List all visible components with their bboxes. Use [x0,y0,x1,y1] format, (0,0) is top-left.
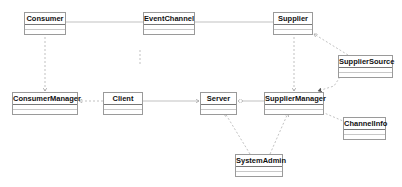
class-operations [25,30,65,34]
class-name: EventChannel [144,13,194,25]
class-box-channelinfo[interactable]: ChannelInfo [343,117,386,140]
class-name: SupplierManager [265,93,323,105]
class-operations [339,73,392,77]
class-box-suppliermanager[interactable]: SupplierManager [264,92,324,115]
edge-suppliersource-suppliermanager [318,77,340,91]
class-operations [265,110,323,114]
class-operations [201,110,236,114]
class-operations [344,135,385,139]
class-name: Client [104,93,142,105]
class-name: SystemAdmin [236,155,282,167]
class-operations [104,110,142,114]
class-box-suppliersource[interactable]: SupplierSource [338,55,393,78]
class-box-consumermanager[interactable]: ConsumerManager [12,92,78,115]
edge-suppliersource-supplier [314,34,348,55]
uml-diagram-canvas: Consumer EventChannel Supplier SupplierS… [0,0,402,187]
edge-systemadmin-suppliermanager [270,113,288,154]
edge-suppliermanager-channelinfo [322,112,343,121]
class-operations [144,30,194,34]
class-operations [236,172,282,176]
class-box-systemadmin[interactable]: SystemAdmin [235,154,283,177]
class-box-server[interactable]: Server [200,92,237,115]
class-name: ChannelInfo [344,118,385,130]
class-operations [13,110,77,114]
class-operations [274,30,312,34]
class-name: Consumer [25,13,65,25]
class-name: SupplierSource [339,56,392,68]
class-box-supplier[interactable]: Supplier [273,12,313,35]
class-name: ConsumerManager [13,93,77,105]
class-name: Supplier [274,13,312,25]
class-box-consumer[interactable]: Consumer [24,12,66,35]
class-box-client[interactable]: Client [103,92,143,115]
edge-systemadmin-server [225,113,250,154]
class-name: Server [201,93,236,105]
class-box-eventchannel[interactable]: EventChannel [143,12,195,35]
